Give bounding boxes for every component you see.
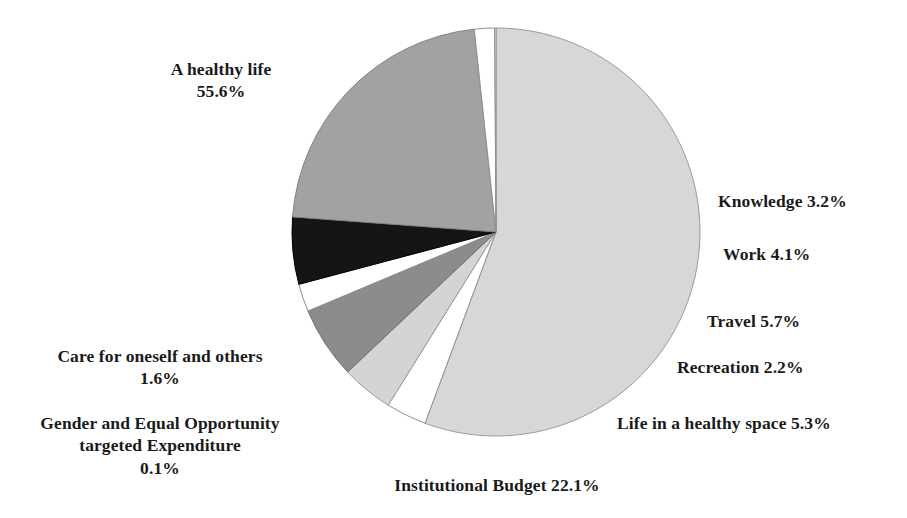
slice-label-travel: Travel 5.7% [707, 310, 800, 332]
slice-label-life-in-a-healthy-space: Life in a healthy space 5.3% [617, 412, 831, 434]
slice-label-knowledge: Knowledge 3.2% [718, 190, 847, 212]
slice-label-institutional-budget: Institutional Budget 22.1% [338, 474, 656, 496]
slice-label-a-healthy-life: A healthy life 55.6% [112, 58, 330, 103]
pie-chart-figure: A healthy life 55.6% Care for oneself an… [0, 0, 907, 518]
slice-label-recreation: Recreation 2.2% [677, 356, 804, 378]
slice-label-care-for-oneself-and-others: Care for oneself and others 1.6% [10, 345, 310, 390]
slice-label-gender-and-equal-opportunity: Gender and Equal Opportunity targeted Ex… [10, 412, 310, 479]
pie-slices-group [292, 28, 700, 436]
slice-label-work: Work 4.1% [723, 243, 810, 265]
